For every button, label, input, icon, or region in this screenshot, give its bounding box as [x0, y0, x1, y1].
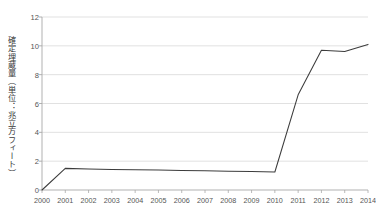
data-series-line: [42, 44, 368, 190]
gridlines: [42, 17, 368, 161]
